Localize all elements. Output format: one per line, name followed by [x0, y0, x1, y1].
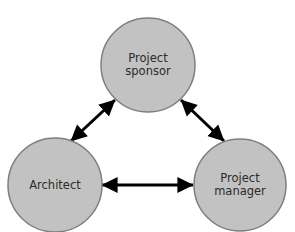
- node-project-sponsor[interactable]: Project sponsor: [101, 18, 195, 112]
- node-project-manager-label-line1: Project: [220, 171, 260, 185]
- node-architect-label-line1: Architect: [29, 178, 81, 192]
- node-project-manager[interactable]: Project manager: [194, 139, 286, 231]
- node-project-sponsor-label-line2: sponsor: [125, 64, 171, 78]
- connector-sponsor-to-manager: [181, 100, 224, 141]
- node-project-sponsor-label-line1: Project: [128, 51, 168, 65]
- connector-architect-to-sponsor: [71, 100, 115, 141]
- diagram-svg: Project sponsor Architect Project manage…: [0, 0, 295, 232]
- diagram-canvas: Project sponsor Architect Project manage…: [0, 0, 295, 232]
- node-architect[interactable]: Architect: [8, 138, 102, 232]
- node-project-manager-label-line2: manager: [214, 184, 266, 198]
